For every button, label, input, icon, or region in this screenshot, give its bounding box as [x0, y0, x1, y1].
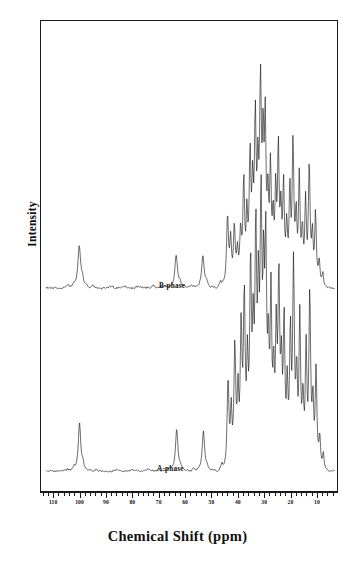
- x-axis-minor-tick: [227, 492, 228, 496]
- x-axis-minor-tick: [69, 492, 70, 496]
- x-axis-tick-label: 100: [75, 499, 84, 505]
- x-axis-minor-tick: [148, 492, 149, 496]
- x-axis-minor-tick: [254, 492, 255, 496]
- x-axis-tick: [159, 492, 160, 498]
- x-axis-minor-tick: [322, 492, 323, 496]
- y-axis-title: Intensity: [26, 184, 38, 264]
- x-axis-tick: [132, 492, 133, 498]
- x-axis-minor-tick: [196, 492, 197, 496]
- x-axis-minor-tick: [275, 492, 276, 496]
- x-axis-minor-tick: [333, 492, 334, 496]
- x-axis-tick-label: 80: [129, 499, 135, 505]
- x-axis-minor-tick: [74, 492, 75, 496]
- nmr-spectrum-figure: Intensity B-phase A-phase 11010090807060…: [0, 0, 355, 562]
- x-axis-minor-tick: [206, 492, 207, 496]
- x-axis-minor-tick: [259, 492, 260, 496]
- x-axis-minor-tick: [127, 492, 128, 496]
- x-axis-tick-label: 70: [156, 499, 162, 505]
- x-axis-minor-tick: [164, 492, 165, 496]
- x-axis-minor-tick: [217, 492, 218, 496]
- x-axis-minor-tick: [327, 492, 328, 496]
- x-axis-minor-tick: [95, 492, 96, 496]
- x-axis-minor-tick: [175, 492, 176, 496]
- x-axis-tick: [211, 492, 212, 498]
- x-axis-minor-tick: [169, 492, 170, 496]
- x-axis-tick: [238, 492, 239, 498]
- x-axis-minor-tick: [138, 492, 139, 496]
- x-axis-tick: [317, 492, 318, 498]
- x-axis-minor-tick: [43, 492, 44, 496]
- x-axis-tick-label: 10: [314, 499, 320, 505]
- x-axis-tick: [291, 492, 292, 498]
- x-axis-minor-tick: [64, 492, 65, 496]
- x-axis-minor-tick: [269, 492, 270, 496]
- x-axis-tick-label: 30: [261, 499, 267, 505]
- x-axis-minor-tick: [201, 492, 202, 496]
- trace-b-phase-line: [46, 64, 334, 289]
- x-axis-minor-tick: [312, 492, 313, 496]
- x-axis-minor-tick: [190, 492, 191, 496]
- x-axis-minor-tick: [85, 492, 86, 496]
- x-axis-tick: [80, 492, 81, 498]
- x-axis-tick-label: 50: [209, 499, 215, 505]
- x-axis-minor-tick: [222, 492, 223, 496]
- x-axis: 110100908070605040302010: [40, 492, 338, 504]
- plot-frame: B-phase A-phase: [40, 20, 338, 492]
- x-axis-minor-tick: [48, 492, 49, 496]
- spectra-plot-area: [41, 21, 337, 491]
- x-axis-tick-label: 60: [182, 499, 188, 505]
- x-axis-minor-tick: [101, 492, 102, 496]
- x-axis-minor-tick: [153, 492, 154, 496]
- x-axis-minor-tick: [233, 492, 234, 496]
- trace-a-phase-line: [46, 175, 334, 473]
- x-axis-minor-tick: [143, 492, 144, 496]
- x-axis-tick: [53, 492, 54, 498]
- x-axis-minor-tick: [306, 492, 307, 496]
- x-axis-minor-tick: [111, 492, 112, 496]
- x-axis-tick-label: 40: [235, 499, 241, 505]
- x-axis-minor-tick: [280, 492, 281, 496]
- x-axis-title: Chemical Shift (ppm): [0, 528, 355, 545]
- trace-label-b-phase: B-phase: [159, 282, 185, 290]
- trace-label-a-phase: A-phase: [157, 465, 184, 473]
- x-axis-minor-tick: [285, 492, 286, 496]
- x-axis-minor-tick: [301, 492, 302, 496]
- x-axis-tick-label: 110: [49, 499, 57, 505]
- x-axis-minor-tick: [180, 492, 181, 496]
- x-axis-minor-tick: [122, 492, 123, 496]
- trace-b-phase: [46, 64, 334, 289]
- x-axis-minor-tick: [58, 492, 59, 496]
- x-axis-minor-tick: [243, 492, 244, 496]
- x-axis-minor-tick: [248, 492, 249, 496]
- x-axis-minor-tick: [296, 492, 297, 496]
- x-axis-minor-tick: [116, 492, 117, 496]
- x-axis-tick-label: 20: [288, 499, 294, 505]
- x-axis-minor-tick: [90, 492, 91, 496]
- x-axis-tick: [264, 492, 265, 498]
- trace-a-phase: [46, 175, 334, 473]
- x-axis-tick: [185, 492, 186, 498]
- x-axis-tick: [106, 492, 107, 498]
- x-axis-tick-label: 90: [103, 499, 109, 505]
